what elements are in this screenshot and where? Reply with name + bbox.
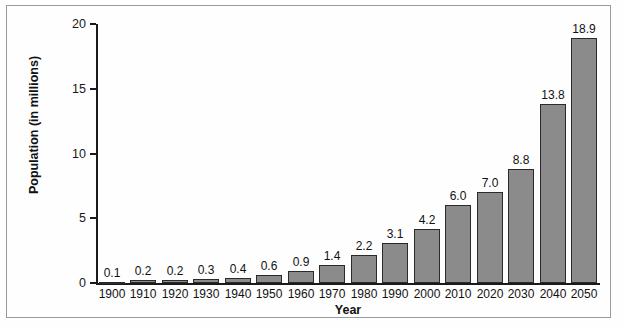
bar — [319, 265, 345, 283]
x-axis-line — [96, 283, 600, 285]
bar-value-label: 7.0 — [468, 177, 512, 189]
y-tick-mark — [90, 153, 96, 155]
y-tick-label: 10 — [60, 148, 86, 161]
bar — [99, 282, 125, 284]
bar — [193, 279, 219, 283]
bar — [225, 278, 251, 283]
bar — [414, 229, 440, 283]
y-tick-mark — [90, 23, 96, 25]
y-tick-label: 5 — [60, 212, 86, 225]
y-tick-label: 20 — [60, 18, 86, 31]
y-tick-label: 15 — [60, 83, 86, 96]
bar-value-label: 13.8 — [531, 89, 575, 101]
bar — [162, 280, 188, 283]
y-axis-title: Population (in millions) — [27, 25, 41, 225]
bar — [288, 271, 314, 283]
bar — [382, 243, 408, 283]
chart-figure: 05101520 0.10.20.20.30.40.60.91.42.23.14… — [0, 0, 625, 330]
bar — [130, 280, 156, 283]
y-axis-line — [96, 24, 98, 284]
bar-value-label: 6.0 — [436, 190, 480, 202]
bar — [477, 192, 503, 283]
bar-value-label: 2.2 — [342, 240, 386, 252]
bar-value-label: 8.8 — [499, 154, 543, 166]
bar-value-label: 18.9 — [562, 23, 606, 35]
bar — [540, 104, 566, 283]
x-tick-label: 2050 — [562, 288, 606, 300]
bar — [508, 169, 534, 283]
bar-value-label: 4.2 — [405, 214, 449, 226]
bar — [351, 255, 377, 283]
bar — [445, 205, 471, 283]
bar — [256, 275, 282, 283]
y-tick-label: 0 — [60, 277, 86, 290]
plot-area: 05101520 0.10.20.20.30.40.60.91.42.23.14… — [0, 0, 625, 330]
y-tick-mark — [90, 88, 96, 90]
bar-value-label: 3.1 — [373, 228, 417, 240]
x-axis-title: Year — [96, 303, 600, 317]
bar — [571, 38, 597, 283]
y-tick-mark — [90, 217, 96, 219]
y-tick-mark — [90, 282, 96, 284]
